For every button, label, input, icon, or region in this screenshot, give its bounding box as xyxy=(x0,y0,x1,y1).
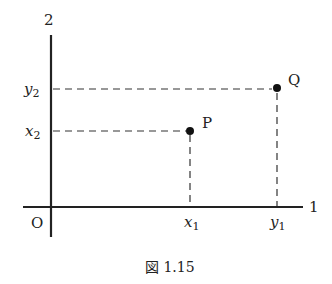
point-p-marker xyxy=(186,127,194,135)
origin-label: O xyxy=(31,214,43,232)
point-p-label: P xyxy=(202,114,212,132)
point-q-label: Q xyxy=(288,71,300,89)
horizontal-axis-label: 1 xyxy=(309,198,319,216)
vertical-axis-label: 2 xyxy=(44,11,54,29)
tick-label-y2: y2 xyxy=(23,80,39,100)
tick-label-y1: y1 xyxy=(269,213,285,233)
tick-label-x2: x2 xyxy=(25,122,40,142)
tick-label-x1: x1 xyxy=(184,213,199,233)
figure-caption: 図 1.15 xyxy=(145,259,195,275)
coordinate-diagram: 2 1 O y2 x2 x1 y1 P Q 図 1.15 xyxy=(0,0,332,284)
point-q-marker xyxy=(273,84,281,92)
